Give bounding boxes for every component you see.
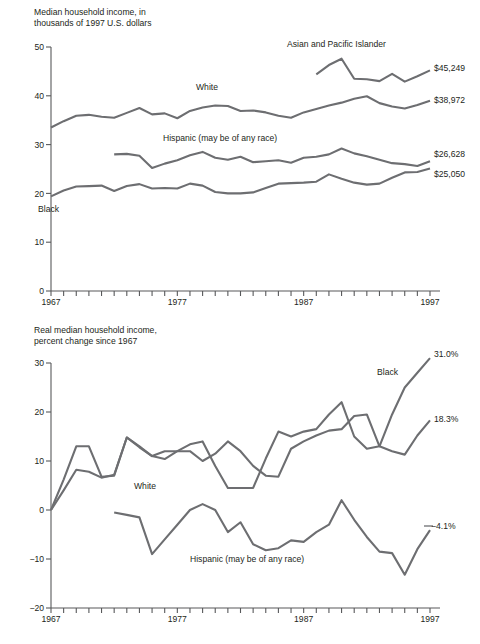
top-series-label-white: White (196, 82, 218, 92)
y-axis-tick-label: 40 (34, 91, 44, 101)
figure-container: Median household income, in thousands of… (0, 0, 480, 644)
y-axis-tick-label: 30 (34, 358, 44, 368)
bottom-chart-title-line2: percent change since 1967 (34, 336, 137, 346)
x-axis-tick-label: 1987 (294, 297, 313, 307)
top-chart-title-line1: Median household income, in (34, 7, 146, 17)
y-axis-tick-label: 20 (34, 189, 44, 199)
top-series-label-black: Black (38, 204, 60, 214)
top-series-label-asian: Asian and Pacific Islander (287, 39, 386, 49)
bottom-chart-x-axis: 1967197719871997 (41, 608, 440, 624)
top-chart-panel: Median household income, in thousands of… (34, 7, 465, 307)
x-axis-tick-label: 1987 (294, 614, 313, 624)
series-line-black (51, 358, 430, 510)
bottom-value-label-white: 18.3% (434, 414, 459, 424)
bottom-chart-title-line1: Real median household income, (34, 325, 157, 335)
y-axis-tick-label: 50 (34, 42, 44, 52)
top-value-label-asian: $45,249 (434, 63, 465, 73)
bottom-series-label-white: White (134, 481, 156, 491)
y-axis-tick-label: 10 (34, 456, 44, 466)
y-axis-tick-label: 0 (39, 505, 44, 515)
x-axis-tick-label: 1997 (420, 297, 439, 307)
y-axis-tick-label: 0 (39, 286, 44, 296)
series-line-asian-and-pacific-islander (316, 59, 430, 82)
top-chart-title-line2: thousands of 1997 U.S. dollars (34, 18, 152, 28)
y-axis-tick-label: −10 (29, 554, 44, 564)
bottom-chart-y-axis: −20−100102030 (29, 358, 51, 613)
series-line-white (51, 414, 430, 510)
y-axis-tick-label: 20 (34, 407, 44, 417)
bottom-chart-series-lines (51, 358, 433, 575)
top-chart-x-axis: 1967197719871997 (41, 291, 440, 307)
x-axis-tick-label: 1997 (420, 614, 439, 624)
series-line-hispanic-may-be-of-any-race (114, 149, 430, 169)
x-axis-tick-label: 1977 (168, 297, 187, 307)
top-value-label-hispanic: $26,628 (434, 149, 465, 159)
series-line-black (51, 169, 430, 197)
x-axis-tick-label: 1977 (168, 614, 187, 624)
bottom-value-label-black: 31.0% (434, 349, 459, 359)
top-series-label-hispanic: Hispanic (may be of any race) (163, 133, 277, 143)
bottom-value-label-hispanic: −4.1% (431, 521, 456, 531)
y-axis-tick-label: 10 (34, 237, 44, 247)
bottom-chart-panel: Real median household income, percent ch… (29, 325, 458, 624)
bottom-series-label-hispanic: Hispanic (may be of any race) (190, 554, 304, 564)
top-chart-series-lines (51, 59, 430, 197)
bottom-series-label-black: Black (377, 367, 399, 377)
x-axis-tick-label: 1967 (41, 297, 60, 307)
top-chart-y-axis: 01020304050 (34, 42, 51, 296)
two-panel-line-chart: Median household income, in thousands of… (0, 0, 480, 644)
top-value-label-white: $38,972 (434, 95, 465, 105)
series-line-white (51, 96, 430, 127)
top-value-label-black: $25,050 (434, 169, 465, 179)
x-axis-tick-label: 1967 (41, 614, 60, 624)
y-axis-tick-label: −20 (29, 603, 44, 613)
y-axis-tick-label: 30 (34, 140, 44, 150)
